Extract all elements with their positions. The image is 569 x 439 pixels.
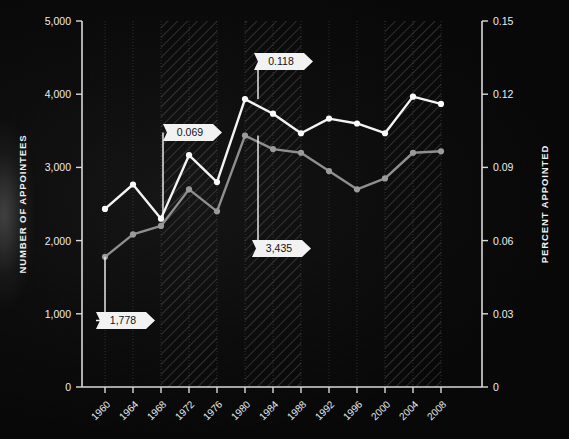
x-tick-label-1968: 1968 [145,398,169,422]
data-point-2000 [382,175,388,181]
data-point-1984 [270,146,276,152]
callout-label: 3,435 [266,242,292,254]
data-point-1996 [354,120,360,126]
data-point-1976 [214,208,220,214]
right-tick-label-0.15: 0.15 [493,15,514,27]
data-point-1996 [354,186,360,192]
data-point-1976 [214,179,220,185]
callout-label: 0.118 [268,55,294,67]
right-axis-title: PERCENT APPOINTED [539,145,550,263]
x-tick-label-2004: 2004 [397,398,421,422]
line-chart: 01,0002,0003,0004,0005,000 NUMBER OF APP… [0,0,569,439]
right-tick-label-0: 0 [493,381,499,393]
data-point-1992 [326,168,332,174]
x-tick-label-1964: 1964 [117,398,141,422]
data-point-2008 [438,101,444,107]
left-tick-label-0: 0 [65,381,71,393]
data-point-1984 [270,111,276,117]
x-tick-label-2008: 2008 [425,398,449,422]
data-point-2004 [410,150,416,156]
left-tick-label-1,000: 1,000 [45,308,71,320]
x-tick-label-1984: 1984 [257,398,281,422]
data-point-1968 [158,223,164,229]
right-tick-label-0.03: 0.03 [493,308,514,320]
left-tick-label-3,000: 3,000 [45,161,71,173]
data-point-2000 [382,130,388,136]
left-axis-title: NUMBER OF APPOINTEES [17,134,28,273]
callout-1778: 1,778 [96,257,155,329]
data-point-2008 [438,148,444,154]
callout-label: 0.069 [177,126,203,138]
data-point-1992 [326,116,332,122]
right-tick-label-0.12: 0.12 [493,88,514,100]
callout-label: 1,778 [110,314,136,326]
data-point-1972 [186,152,192,158]
data-point-1980 [242,132,248,138]
data-point-1964 [130,181,136,187]
left-axis: 01,0002,0003,0004,0005,000 NUMBER OF APP… [17,15,82,393]
x-tick-label-2000: 2000 [369,398,393,422]
data-point-1972 [186,186,192,192]
data-point-1988 [298,150,304,156]
left-tick-label-2,000: 2,000 [45,235,71,247]
data-point-1980 [242,96,248,102]
data-point-1988 [298,130,304,136]
right-tick-label-0.09: 0.09 [493,161,514,173]
left-tick-label-4,000: 4,000 [45,88,71,100]
x-tick-label-1960: 1960 [89,398,113,422]
x-tick-label-1992: 1992 [313,398,337,422]
left-tick-label-5,000: 5,000 [45,15,71,27]
data-point-1964 [130,231,136,237]
callout-stem [96,257,105,321]
x-axis: 1960196419681972197619801984198819921996… [82,387,482,422]
x-tick-label-1996: 1996 [341,398,365,422]
x-tick-label-1980: 1980 [229,398,253,422]
right-axis: 00.030.060.090.120.15 PERCENT APPOINTED [482,15,550,393]
x-tick-label-1976: 1976 [201,398,225,422]
chart-container: 01,0002,0003,0004,0005,000 NUMBER OF APP… [0,0,569,439]
right-tick-label-0.06: 0.06 [493,235,514,247]
x-tick-label-1988: 1988 [285,398,309,422]
data-point-1960 [102,206,108,212]
data-point-2004 [410,94,416,100]
x-tick-label-1972: 1972 [173,398,197,422]
